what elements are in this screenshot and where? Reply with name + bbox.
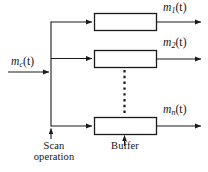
buffer-block-n: [95, 118, 157, 135]
input-signal-argument: (t): [23, 55, 34, 67]
scan-operation-line-1: Scan: [44, 140, 65, 151]
output-signal-n-label: mn(t): [163, 103, 187, 118]
scan-operation-label: Scan operation: [31, 140, 77, 163]
buffer-label-text: Buffer: [111, 140, 139, 151]
input-signal-label: mc(t): [11, 55, 34, 70]
output-n-argument: (t): [175, 103, 186, 115]
output-2-argument: (t): [175, 36, 186, 48]
scan-operation-line-2: operation: [31, 151, 77, 162]
buffer-block-2: [95, 51, 157, 68]
output-signal-2-label: m2(t): [163, 36, 187, 51]
block-diagram-figure: mc(t) m1(t) m2(t) mn(t) Scan operation B…: [0, 0, 208, 172]
output-signal-1-label: m1(t): [163, 1, 187, 16]
buffer-label: Buffer: [105, 140, 145, 151]
output-1-argument: (t): [175, 1, 186, 13]
buffer-block-1: [95, 14, 157, 31]
